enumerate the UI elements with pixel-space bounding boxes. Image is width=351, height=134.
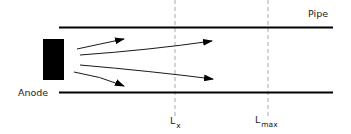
anode-block bbox=[43, 39, 64, 80]
lx-label: Lx bbox=[170, 116, 181, 126]
flow-arrow-upper-long bbox=[80, 41, 212, 55]
flow-arrow-lower-long bbox=[80, 65, 213, 79]
lmax-label: Lmax bbox=[255, 115, 278, 125]
lx-label-main: L bbox=[170, 115, 175, 126]
flow-arrow-upper-short bbox=[77, 39, 124, 49]
lmax-label-main: L bbox=[255, 114, 260, 125]
diagram-canvas: Pipe Anode Lx Lmax bbox=[0, 0, 351, 134]
diagram-svg bbox=[0, 0, 351, 134]
lx-label-subscript: x bbox=[176, 121, 180, 130]
flow-arrow-lower-short bbox=[74, 72, 124, 86]
pipe-label: Pipe bbox=[308, 9, 328, 19]
anode-label: Anode bbox=[18, 88, 48, 98]
lmax-label-subscript: max bbox=[261, 120, 277, 129]
